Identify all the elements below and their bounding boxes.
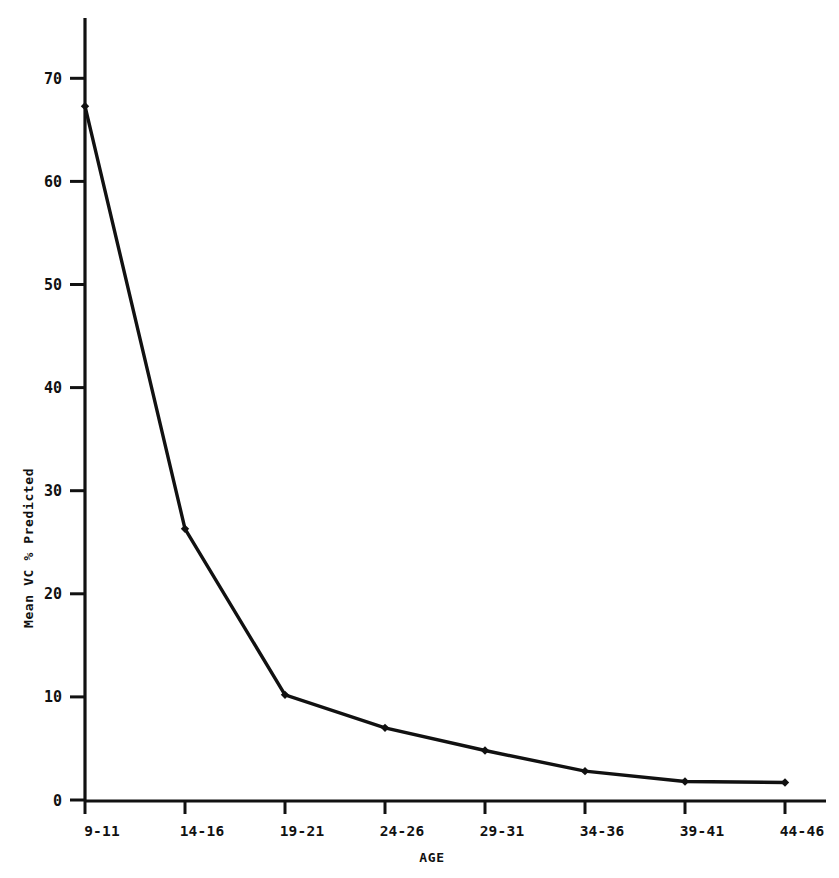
x-axis-tick-label: 24-26 — [380, 823, 425, 839]
x-axis-title: AGE — [419, 850, 444, 865]
y-axis-tick-label: 10 — [44, 688, 62, 706]
y-axis-tick-label: 20 — [44, 585, 62, 603]
line-chart-canvas: 010203040506070 9-1114-1619-2124-2629-31… — [0, 0, 839, 878]
y-axis-tick-label: 40 — [44, 379, 62, 397]
y-axis-tick-label: 0 — [53, 792, 62, 810]
x-axis-tick-label: 34-36 — [580, 823, 625, 839]
x-axis-tick-label: 39-41 — [680, 823, 725, 839]
chart-figure: 010203040506070 9-1114-1619-2124-2629-31… — [0, 0, 839, 878]
x-axis-tick-label: 9-11 — [84, 823, 120, 839]
x-axis-tick-label: 29-31 — [480, 823, 525, 839]
y-axis-tick-label: 70 — [44, 70, 62, 88]
y-axis-tick-label: 60 — [44, 173, 62, 191]
y-axis-tick-label: 50 — [44, 276, 62, 294]
x-axis-tick-label: 19-21 — [280, 823, 325, 839]
x-axis-tick-label: 14-16 — [180, 823, 225, 839]
chart-background — [0, 0, 839, 878]
y-axis-tick-label: 30 — [44, 482, 62, 500]
y-axis-title: Mean VC % Predicted — [21, 468, 36, 628]
x-axis-tick-label: 44-46 — [780, 823, 825, 839]
